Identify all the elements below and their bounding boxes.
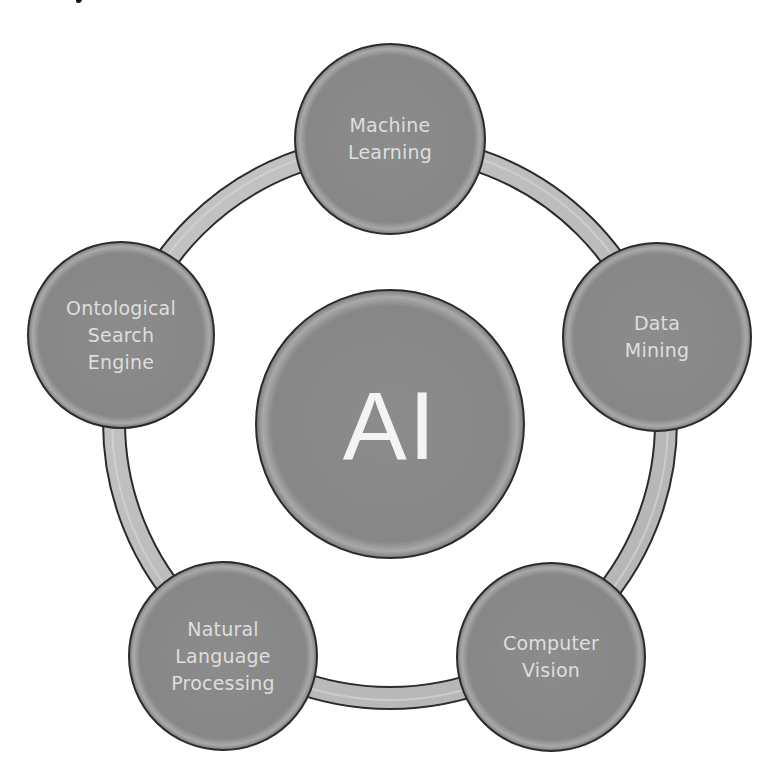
node-label-computer-vision: Computer Vision bbox=[503, 630, 599, 684]
center-label: AI bbox=[343, 378, 438, 474]
node-label-ontological-search-engine: Ontological Search Engine bbox=[66, 295, 176, 376]
node-label-machine-learning: Machine Learning bbox=[348, 112, 432, 166]
diagram-canvas: AI Machine Learning Data Mining Computer… bbox=[0, 0, 780, 783]
node-label-data-mining: Data Mining bbox=[625, 310, 689, 364]
node-label-natural-language-processing: Natural Language Processing bbox=[171, 616, 274, 697]
